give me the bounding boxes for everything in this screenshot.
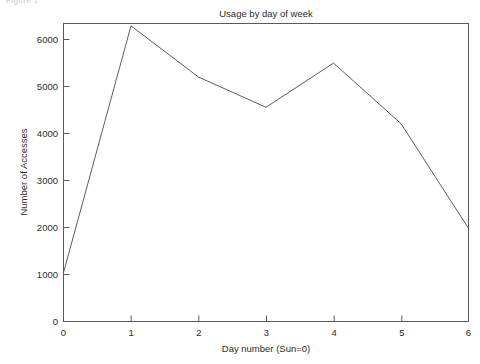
- x-axis-tick-labels: 0 1 2 3 4 5 6: [61, 327, 471, 338]
- usage-by-day-line-chart: 0 1000 2000 3000 4000 5000 6000 0 1 2 3 …: [0, 0, 480, 364]
- chart-title: Usage by day of week: [219, 8, 313, 19]
- y-axis-title: Number of Accesses: [18, 128, 29, 215]
- y-axis-tick-labels: 0 1000 2000 3000 4000 5000 6000: [37, 34, 58, 327]
- x-axis-ticks: [64, 316, 469, 322]
- y-tick-label: 0: [53, 316, 58, 327]
- x-tick-label: 4: [332, 327, 337, 338]
- x-tick-label: 2: [196, 327, 201, 338]
- y-tick-label: 2000: [37, 222, 58, 233]
- x-tick-label: 0: [61, 327, 66, 338]
- chart-plot-area: 0 1000 2000 3000 4000 5000 6000 0 1 2 3 …: [0, 0, 480, 364]
- data-series-line: [64, 26, 469, 273]
- y-tick-label: 5000: [37, 81, 58, 92]
- y-tick-label: 3000: [37, 175, 58, 186]
- x-tick-label: 6: [466, 327, 471, 338]
- y-tick-label: 1000: [37, 269, 58, 280]
- y-tick-label: 6000: [37, 34, 58, 45]
- y-tick-label: 4000: [37, 128, 58, 139]
- x-axis-title: Day number (Sun=0): [222, 343, 310, 354]
- x-tick-label: 5: [399, 327, 404, 338]
- x-tick-label: 3: [264, 327, 269, 338]
- y-axis-ticks: [64, 40, 70, 322]
- plot-frame: [64, 24, 469, 322]
- x-tick-label: 1: [129, 327, 134, 338]
